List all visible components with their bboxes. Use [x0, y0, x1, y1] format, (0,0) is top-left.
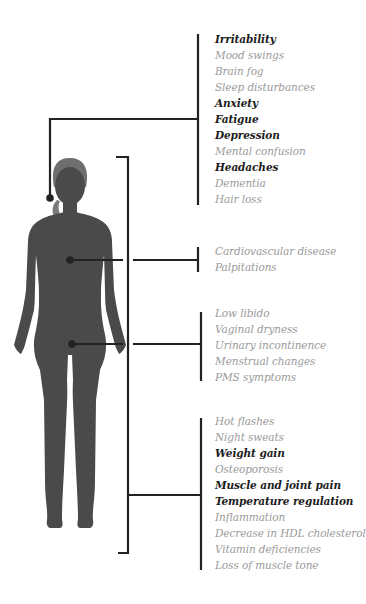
symptom-item: Weight gain	[215, 445, 366, 461]
symptom-item: Menstrual changes	[215, 353, 326, 369]
symptom-item: Osteoporosis	[215, 461, 366, 477]
symptom-item: Night sweats	[215, 429, 366, 445]
symptom-item: Low libido	[215, 305, 326, 321]
symptom-item: Inflammation	[215, 509, 366, 525]
symptom-item: Vitamin deficiencies	[215, 541, 366, 557]
symptom-item: Urinary incontinence	[215, 337, 326, 353]
head-point-icon	[46, 194, 54, 202]
symptom-list-chest: Cardiovascular disease Palpitations	[215, 243, 336, 275]
symptom-list-head: Irritability Mood swings Brain fog Sleep…	[215, 31, 315, 207]
symptom-item: Muscle and joint pain	[215, 477, 366, 493]
symptom-list-whole-body: Hot flashes Night sweats Weight gain Ost…	[215, 413, 366, 573]
symptom-item: Depression	[215, 127, 315, 143]
symptom-item: Hair loss	[215, 191, 315, 207]
symptom-item: Temperature regulation	[215, 493, 366, 509]
symptom-item: Anxiety	[215, 95, 315, 111]
symptom-item: Irritability	[215, 31, 315, 47]
symptom-item: Fatigue	[215, 111, 315, 127]
symptom-item: Vaginal dryness	[215, 321, 326, 337]
whole-body-bracket	[116, 157, 128, 553]
symptom-item: Sleep disturbances	[215, 79, 315, 95]
symptom-item: Loss of muscle tone	[215, 557, 366, 573]
pelvis-point-icon	[68, 340, 76, 348]
symptom-item: Brain fog	[215, 63, 315, 79]
symptom-list-pelvis: Low libido Vaginal dryness Urinary incon…	[215, 305, 326, 385]
symptom-item: Mood swings	[215, 47, 315, 63]
symptom-item: Cardiovascular disease	[215, 243, 336, 259]
symptom-item: Mental confusion	[215, 143, 315, 159]
symptom-item: PMS symptoms	[215, 369, 326, 385]
symptom-item: Decrease in HDL cholesterol	[215, 525, 366, 541]
symptom-item: Dementia	[215, 175, 315, 191]
chest-point-icon	[66, 256, 74, 264]
symptom-item: Hot flashes	[215, 413, 366, 429]
symptom-item: Headaches	[215, 159, 315, 175]
symptom-item: Palpitations	[215, 259, 336, 275]
